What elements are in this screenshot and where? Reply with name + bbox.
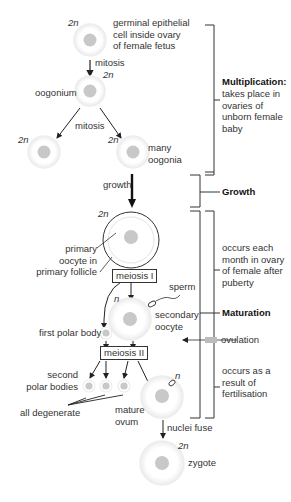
ploidy-zygote: 2n xyxy=(178,440,189,452)
stage-growth-title: Growth xyxy=(222,186,255,198)
label-sperm: sperm xyxy=(169,281,195,293)
ploidy-oogonium: 2n xyxy=(103,69,114,81)
label-mitosis-2: mitosis xyxy=(75,120,105,132)
sperm-icon xyxy=(147,295,180,308)
stage-multiplication-desc: takes place in ovaries of unborn female … xyxy=(222,88,283,134)
label-primary-oocyte: primary oocyte in primary follicle xyxy=(34,243,97,278)
stage-maturation-desc-before: occurs each month in ovary of female aft… xyxy=(222,242,284,288)
label-mitosis-1: mitosis xyxy=(95,57,125,69)
label-growth: growth xyxy=(103,179,132,191)
ploidy-mature-ovum: n xyxy=(175,370,180,382)
ploidy-oogonia-right: 2n xyxy=(108,134,119,146)
stage-multiplication-title: Multiplication: xyxy=(222,76,286,88)
first-polar-body-cell xyxy=(100,327,112,339)
meiosis-2-box: meiosis II xyxy=(100,346,148,360)
label-zygote: zygote xyxy=(188,457,216,469)
label-secondary-oocyte: secondary oocyte xyxy=(155,309,199,332)
label-mature-ovum: mature ovum xyxy=(115,404,145,427)
label-ovulation: ovulation xyxy=(221,334,259,346)
oogonium-cell xyxy=(75,76,105,106)
oogonia-left-cell xyxy=(28,136,60,168)
label-many-oogonia: many oogonia xyxy=(148,142,182,165)
stage-maturation-title: Maturation xyxy=(222,307,271,319)
mature-ovum-cell xyxy=(141,376,183,418)
second-polar-bodies xyxy=(83,380,130,392)
label-germinal-cell: germinal epithelial cell inside ovary of… xyxy=(113,17,190,52)
ploidy-oogonia-left: 2n xyxy=(18,134,29,146)
meiosis-1-box: meiosis I xyxy=(112,269,157,283)
germinal-cell xyxy=(74,24,106,56)
ploidy-primary-oocyte: 2n xyxy=(98,208,109,220)
oogonia-right-cell xyxy=(117,136,149,168)
label-oogonium: oogonium xyxy=(35,87,77,99)
label-nuclei-fuse: nuclei fuse xyxy=(167,422,212,434)
stage-brackets xyxy=(190,25,220,418)
ploidy-germinal: 2n xyxy=(68,17,79,29)
primary-follicle-cell xyxy=(103,212,159,268)
label-first-polar-body: first polar body xyxy=(39,327,101,339)
label-second-polar-bodies: second polar bodies xyxy=(22,369,78,392)
label-all-degenerate: all degenerate xyxy=(20,407,80,419)
ploidy-secondary-oocyte: n xyxy=(114,293,119,305)
stage-maturation-desc-after: occurs as a result of fertilisation xyxy=(222,365,271,400)
